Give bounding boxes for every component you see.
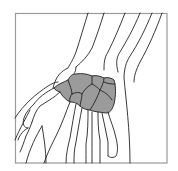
radius-distal-edge: [74, 67, 76, 74]
forearm-outline-ulnar: [124, 13, 152, 163]
carpal-cluster: [54, 74, 116, 113]
ulna-outline-right: [117, 13, 140, 72]
carpal-bones: [54, 74, 116, 113]
index-metacarpal-left: [44, 102, 70, 163]
middle-metacarpal-right: [86, 110, 88, 163]
hand-outline-radial: [15, 82, 58, 118]
little-metacarpal-right: [108, 112, 118, 158]
index-phalanx-right: [42, 126, 46, 163]
ulna-outline-left: [104, 13, 125, 70]
ring-metacarpal-right: [98, 112, 100, 163]
hand-wrist-diagram: [0, 0, 178, 171]
little-metacarpal-left: [102, 113, 108, 156]
middle-metacarpal-left: [74, 108, 82, 163]
thumb-metacarpal-inner: [32, 92, 60, 122]
